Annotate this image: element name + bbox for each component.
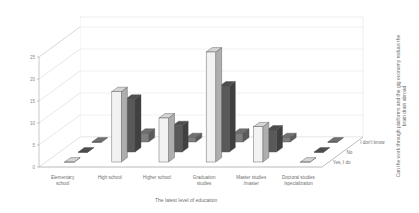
x-axis-category-label: Elementary [51,175,75,180]
bar-front-face [328,142,338,143]
x-axis-category-label: Graduation [193,175,216,180]
z-axis-tick-label: I don't know [360,140,385,145]
z-axis-title: Can the work through platforms and the g… [395,34,407,177]
x-axis-category-label-line2: school [56,181,69,186]
x-axis-category-label: Doctoral studies [282,175,316,180]
y-axis-tick-label: 10 [30,121,36,126]
bar-side-face [121,87,127,162]
chart-container: 0510152025ElementaryschoolHigh schoolHig… [0,0,419,213]
bar-side-face [263,122,269,162]
bar-side-face [216,48,222,162]
bar-side-face [182,121,188,152]
y-axis-tick-label: 25 [30,55,36,60]
x-axis-category-label: Master studies [236,175,267,180]
bar[interactable] [112,87,128,162]
bar-front-face [65,162,75,163]
bar[interactable] [267,126,283,152]
bar-front-face [92,142,102,143]
bar[interactable] [206,48,222,162]
bar-front-face [206,52,216,162]
bar-side-face [229,82,235,152]
x-axis-category-label-line2: studies [197,181,212,186]
bar-side-face [169,114,175,162]
bar-front-face [78,152,88,153]
bar-side-face [135,95,141,152]
y-axis-tick-label: 0 [32,165,35,170]
bar[interactable] [173,121,189,152]
y-axis-tick-label: 5 [32,143,35,148]
bar[interactable] [253,122,269,162]
z-axis-title-line2: brain drain abroad [401,85,407,126]
bar[interactable] [220,82,236,152]
x-axis-category-label-line2: /specialization [284,181,313,186]
x-axis-category-label-line2: /master [244,181,260,186]
z-axis-tick-label: No [347,150,353,155]
x-axis-category-label: Higher school [143,175,171,180]
y-axis-tick-label: 15 [30,99,36,104]
z-axis-tick-label: Yes, I do [333,160,351,165]
bar-front-face [159,118,169,162]
bar-chart-3d: 0510152025ElementaryschoolHigh schoolHig… [0,0,419,213]
bar[interactable] [159,114,175,162]
y-axis-tick-label: 20 [30,77,36,82]
bar-front-face [112,92,122,162]
chart-plot-area: 0510152025ElementaryschoolHigh schoolHig… [30,17,385,203]
bar-front-face [253,127,262,162]
bar-front-face [301,162,311,163]
x-axis-category-label: High school [98,175,122,180]
bar-front-face [314,152,324,153]
bar[interactable] [126,95,142,152]
x-axis-title: The latest level of education [155,197,217,203]
